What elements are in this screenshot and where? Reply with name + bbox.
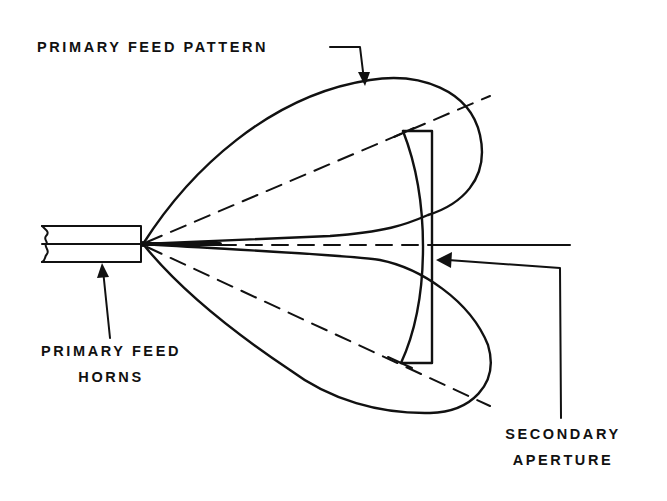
- primary-feed-horns-label-line1: PRIMARY FEED: [36, 344, 186, 359]
- lower-beam-axis: [147, 247, 490, 406]
- secondary-aperture: [388, 128, 432, 368]
- upper-beam-axis: [147, 96, 490, 242]
- primary-feed-horns-label: PRIMARY FEED HORNS: [36, 344, 186, 384]
- primary-feed-pattern-label: PRIMARY FEED PATTERN: [37, 40, 268, 55]
- primary-feed-horns-leader: [97, 263, 110, 338]
- primary-feed-pattern-leader: [330, 47, 370, 86]
- primary-feed-horns: [42, 226, 146, 262]
- boresight-axis: [145, 244, 570, 245]
- secondary-aperture-label-line1: SECONDARY: [493, 427, 633, 442]
- primary-feed-horns-label-line2: HORNS: [36, 370, 186, 385]
- secondary-aperture-label-line2: APERTURE: [493, 453, 633, 468]
- secondary-aperture-leader: [436, 252, 561, 418]
- secondary-aperture-label: SECONDARY APERTURE: [493, 427, 633, 467]
